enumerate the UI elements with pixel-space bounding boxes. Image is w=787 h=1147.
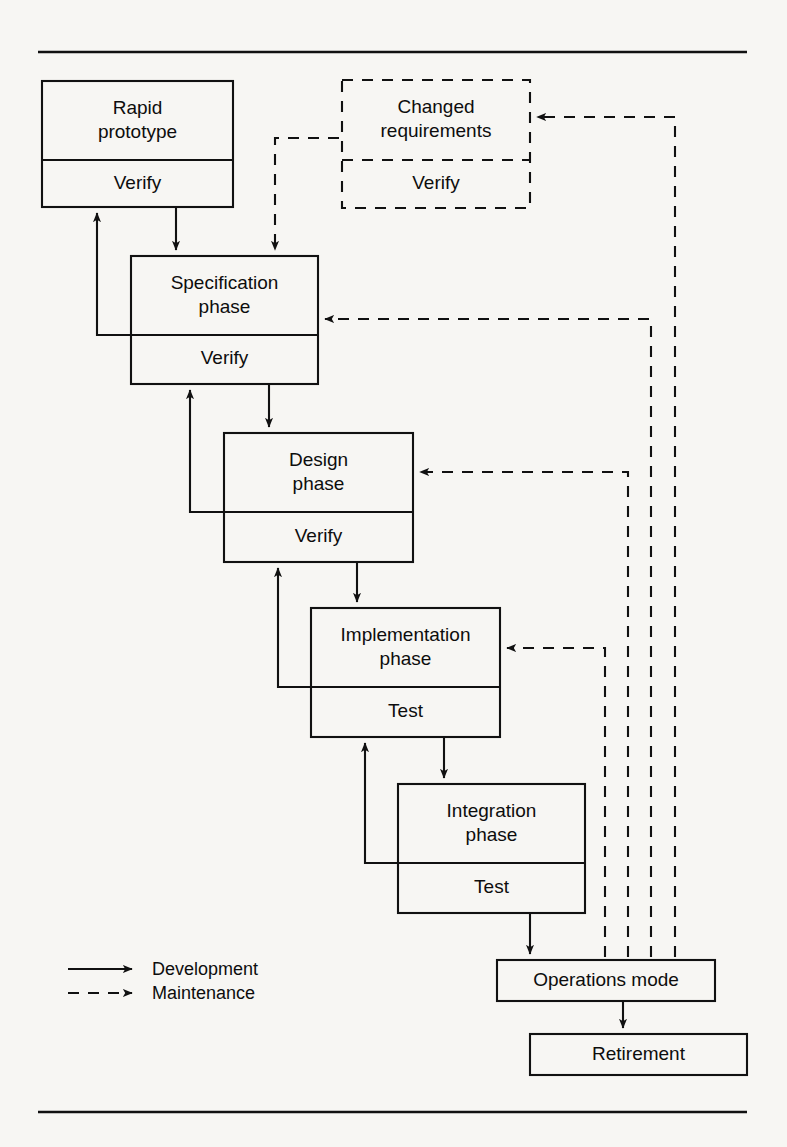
legend: Development Maintenance — [68, 959, 258, 1003]
box-specification-phase-title-line1: Specification — [171, 272, 279, 293]
box-retirement[interactable]: Retirement — [530, 1034, 747, 1075]
lifecycle-diagram-canvas: Rapid prototype Verify Changed requireme… — [0, 0, 787, 1147]
box-implementation-phase[interactable]: Implementation phase Test — [311, 608, 500, 737]
flow-specification-verify-to-rapid-prototype — [97, 213, 131, 335]
box-integration-phase-title-line2: phase — [466, 824, 518, 845]
box-integration-phase-title-line1: Integration — [447, 800, 537, 821]
box-design-phase-subtitle: Verify — [295, 525, 343, 546]
box-specification-phase-title-line2: phase — [199, 296, 251, 317]
box-specification-phase-subtitle: Verify — [201, 347, 249, 368]
figure-rapid-prototyping-model: Rapid prototype Verify Changed requireme… — [0, 0, 787, 1147]
box-changed-requirements[interactable]: Changed requirements Verify — [342, 80, 530, 208]
flow-implementation-verify-to-design — [278, 568, 311, 687]
flow-design-verify-to-specification — [190, 390, 224, 512]
flow-operations-to-design — [420, 472, 628, 957]
box-integration-phase-subtitle: Test — [474, 876, 510, 897]
box-integration-phase[interactable]: Integration phase Test — [398, 784, 585, 913]
box-operations-mode-title: Operations mode — [533, 969, 679, 990]
legend-development-label: Development — [152, 959, 258, 979]
box-rapid-prototype[interactable]: Rapid prototype Verify — [42, 81, 233, 207]
box-changed-requirements-title-line2: requirements — [381, 120, 492, 141]
box-implementation-phase-title-line2: phase — [380, 648, 432, 669]
box-operations-mode[interactable]: Operations mode — [497, 960, 715, 1001]
box-design-phase-title-line2: phase — [293, 473, 345, 494]
flow-integration-test-to-implementation — [365, 743, 398, 863]
legend-item-maintenance: Maintenance — [68, 983, 255, 1003]
legend-maintenance-label: Maintenance — [152, 983, 255, 1003]
legend-item-development: Development — [68, 959, 258, 979]
box-implementation-phase-title-line1: Implementation — [341, 624, 471, 645]
box-implementation-phase-subtitle: Test — [388, 700, 424, 721]
box-changed-requirements-title-line1: Changed — [397, 96, 474, 117]
flow-changed-requirements-to-specification — [275, 138, 339, 250]
box-design-phase-title-line1: Design — [289, 449, 348, 470]
box-rapid-prototype-title-line2: prototype — [98, 121, 177, 142]
box-design-phase[interactable]: Design phase Verify — [224, 433, 413, 562]
box-specification-phase[interactable]: Specification phase Verify — [131, 256, 318, 384]
box-retirement-title: Retirement — [592, 1043, 686, 1064]
box-rapid-prototype-title-line1: Rapid — [113, 97, 163, 118]
box-changed-requirements-subtitle: Verify — [412, 172, 460, 193]
box-rapid-prototype-subtitle: Verify — [114, 172, 162, 193]
